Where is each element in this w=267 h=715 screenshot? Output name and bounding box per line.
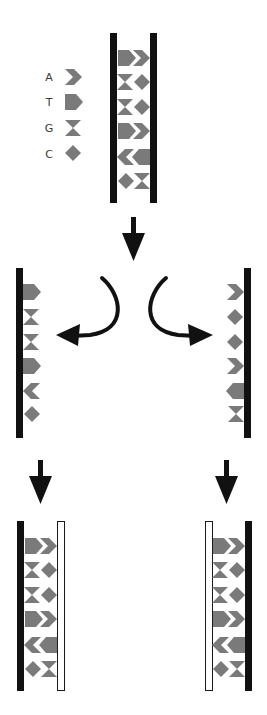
left-strand-bases <box>23 284 41 422</box>
old-strand <box>245 521 252 691</box>
base-g-icon <box>117 99 133 115</box>
base-a-icon <box>227 358 244 374</box>
base-g-icon <box>24 562 40 578</box>
curved-arrow-left-icon <box>56 278 118 346</box>
new-strand <box>58 522 65 691</box>
right-strand-bases <box>226 284 244 422</box>
curved-arrow-right-icon <box>150 278 213 346</box>
diamond-icon <box>65 145 81 161</box>
down-arrow-left-icon <box>29 460 52 504</box>
base-g-icon <box>229 661 245 677</box>
base-c-icon <box>227 334 243 350</box>
left-strand-backbone <box>16 268 23 438</box>
chevron-icon <box>65 69 82 85</box>
base-t-icon <box>213 611 231 627</box>
legend: A T G C <box>45 69 83 161</box>
base-t-icon <box>118 50 136 66</box>
down-arrow-icon <box>122 217 145 261</box>
legend-item-t: T <box>45 94 83 110</box>
new-strand <box>206 522 213 691</box>
daughter-duplex-left <box>17 521 65 691</box>
base-c-icon <box>25 661 41 677</box>
base-t-icon <box>39 637 57 653</box>
separated-left-strand <box>16 268 41 438</box>
base-t-icon <box>25 538 43 554</box>
base-g-icon <box>228 406 244 422</box>
legend-label-g: G <box>45 122 54 135</box>
base-a-icon <box>117 149 134 165</box>
base-a-icon <box>227 284 244 300</box>
daughter-left-base-pairs <box>24 538 57 677</box>
base-t-icon <box>25 611 43 627</box>
parent-left-strand <box>110 33 117 203</box>
base-t-icon <box>227 637 245 653</box>
parent-base-pairs <box>117 50 150 189</box>
legend-item-c: C <box>45 145 81 161</box>
base-g-icon <box>23 309 39 325</box>
base-g-icon <box>41 661 57 677</box>
legend-item-a: A <box>45 69 82 85</box>
daughter-right-base-pairs <box>212 538 245 677</box>
parent-right-strand <box>150 33 157 203</box>
base-a-icon <box>23 383 40 399</box>
base-g-icon <box>117 74 133 90</box>
separated-right-strand <box>226 268 251 438</box>
base-c-icon <box>227 309 243 325</box>
base-g-icon <box>134 173 150 189</box>
legend-item-g: G <box>45 120 81 136</box>
base-c-icon <box>134 74 150 90</box>
base-g-icon <box>24 587 40 603</box>
base-g-icon <box>212 587 228 603</box>
legend-label-a: A <box>45 71 53 84</box>
legend-label-c: C <box>45 148 53 161</box>
dna-replication-diagram: A T G C <box>0 0 267 715</box>
base-c-icon <box>41 587 57 603</box>
base-g-icon <box>23 334 39 350</box>
base-t-icon <box>226 383 244 399</box>
base-t-icon <box>213 538 231 554</box>
base-a-icon <box>24 637 41 653</box>
base-c-icon <box>229 587 245 603</box>
base-c-icon <box>24 406 40 422</box>
base-t-icon <box>23 284 41 300</box>
base-t-icon <box>23 358 41 374</box>
base-t-icon <box>132 149 150 165</box>
base-t-icon <box>118 123 136 139</box>
old-strand <box>17 521 24 691</box>
base-a-icon <box>212 637 229 653</box>
down-arrow-right-icon <box>215 460 238 504</box>
base-c-icon <box>134 99 150 115</box>
parent-duplex <box>110 33 157 203</box>
base-c-icon <box>118 173 134 189</box>
hourglass-icon <box>65 120 81 136</box>
base-c-icon <box>213 661 229 677</box>
base-g-icon <box>212 562 228 578</box>
base-c-icon <box>229 562 245 578</box>
pentagon-icon <box>65 94 83 110</box>
right-strand-backbone <box>244 268 251 438</box>
base-c-icon <box>41 562 57 578</box>
legend-label-t: T <box>45 96 53 109</box>
daughter-duplex-right <box>206 521 253 691</box>
